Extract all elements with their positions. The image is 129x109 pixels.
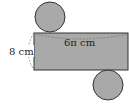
height-label: 8 cm [9, 46, 34, 57]
cylinder-net-diagram: 8 cm 6π cm [0, 0, 129, 109]
circumference-label: 6π cm [64, 37, 96, 48]
bottom-circle-base [93, 70, 123, 100]
top-circle-base [35, 2, 65, 32]
